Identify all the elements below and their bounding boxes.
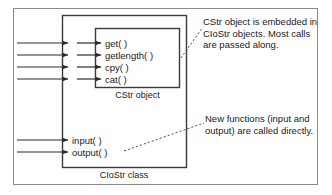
method-label-output: output( ) — [72, 147, 107, 158]
leader-line-embedded-note — [181, 27, 203, 58]
cstr-object-caption: CStr object — [95, 90, 180, 101]
annotation-direct-note: New functions (input and output) are cal… — [205, 113, 323, 136]
method-label-cat: cat( ) — [105, 74, 127, 85]
method-label-get: get( ) — [105, 38, 127, 49]
method-label-input: input( ) — [72, 135, 102, 146]
ciostr-class-caption: CIoStr class — [62, 170, 186, 181]
annotation-embedded-note: CStr object is embedded in CIoStr object… — [203, 16, 321, 51]
method-label-cpy: cpy( ) — [105, 62, 129, 73]
method-label-getlength: getlength( ) — [105, 50, 153, 61]
diagram-canvas: get( ) getlength( ) cpy( ) cat( ) CStr o… — [0, 0, 332, 195]
leader-line-direct-note — [124, 123, 204, 151]
